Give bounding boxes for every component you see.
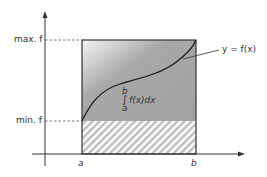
max-f-text: max. f — [14, 34, 43, 44]
max-f-label: max. f — [14, 35, 43, 44]
x-axis-arrow-icon — [238, 152, 245, 157]
b-label: b — [191, 159, 197, 168]
lower-bound-area-hatched — [82, 121, 196, 154]
integral-lower-limit: a — [122, 103, 128, 113]
integral-expression: b ∫ f(x)dx a — [121, 86, 181, 116]
a-label: a — [78, 159, 84, 168]
integrand: f(x)dx — [129, 95, 156, 105]
min-f-text: min. f — [16, 115, 42, 125]
function-label: y = f(x) — [222, 45, 256, 54]
min-f-label: min. f — [16, 116, 42, 125]
y-axis-arrow-icon — [43, 11, 48, 18]
